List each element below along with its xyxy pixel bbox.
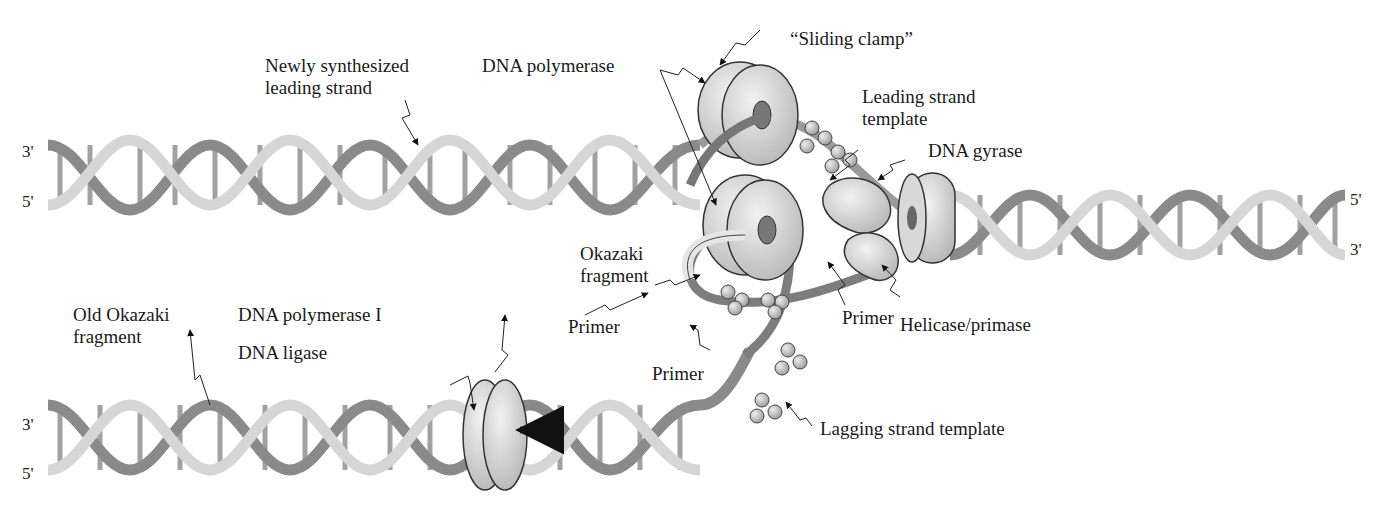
label-okazaki-fragment: Okazaki fragment (580, 243, 649, 287)
top-left-dna-helix (48, 140, 700, 210)
end-bottom-left-3prime: 3' (22, 415, 34, 435)
label-dna-polymerase-i: DNA polymerase I (238, 304, 382, 326)
label-primer-left: Primer (568, 316, 620, 338)
label-dna-polymerase: DNA polymerase (482, 55, 614, 77)
end-right-3prime: 3' (1350, 240, 1362, 260)
label-helicase-primase: Helicase/primase (900, 314, 1031, 336)
right-dna-helix (950, 195, 1345, 255)
replication-fork-diagram (0, 0, 1391, 509)
label-old-okazaki-fragment: Old Okazaki fragment (73, 304, 170, 348)
dna-polymerase-bottom (703, 175, 803, 280)
end-top-left-3prime: 3' (22, 142, 34, 162)
bottom-left-dna-helix (48, 350, 750, 470)
label-sliding-clamp: “Sliding clamp” (790, 28, 913, 50)
label-dna-ligase: DNA ligase (238, 342, 327, 364)
dna-ligase-pol-i (463, 380, 527, 490)
end-bottom-left-5prime: 5' (22, 464, 34, 484)
label-lagging-strand-template: Lagging strand template (820, 418, 1005, 440)
label-dna-gyrase: DNA gyrase (928, 140, 1022, 162)
dna-gyrase (898, 173, 955, 263)
label-primer-bottom: Primer (652, 363, 704, 385)
end-right-5prime: 5' (1350, 190, 1362, 210)
label-primer-mid: Primer (842, 307, 894, 329)
end-top-left-5prime: 5' (22, 192, 34, 212)
label-newly-synthesized-leading-strand: Newly synthesized leading strand (265, 55, 409, 99)
label-leading-strand-template: Leading strand template (862, 86, 975, 130)
